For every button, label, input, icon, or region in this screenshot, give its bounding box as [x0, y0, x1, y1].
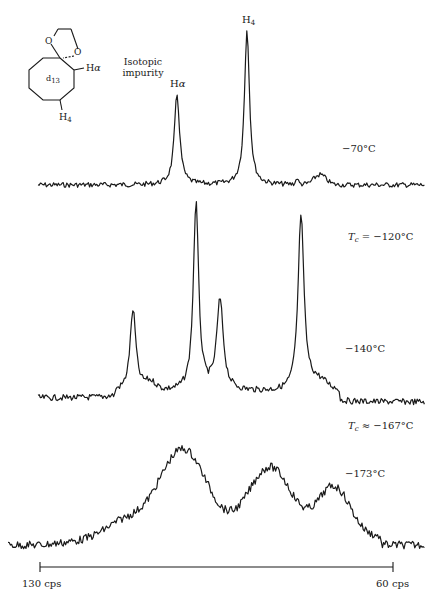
- ring-deuterium-label: d13: [46, 75, 60, 85]
- coalescence-label-2: Tc ≈ −167°C: [348, 421, 413, 433]
- oxygen-label-2: O: [74, 48, 81, 57]
- peak-label-h4: H4: [242, 15, 255, 27]
- nmr-figure: O O d13 Hα H4 Isotopic impurity Hα H4 −7…: [0, 0, 445, 601]
- molecule-h-alpha-label: Hα: [86, 63, 101, 73]
- temperature-label-minus-70: −70°C: [342, 144, 376, 154]
- spectra-canvas: [0, 0, 445, 601]
- temperature-label-minus-140: −140°C: [345, 344, 385, 354]
- isotopic-impurity-annotation: Isotopic impurity: [118, 56, 168, 78]
- coalescence-label-1: Tc = −120°C: [348, 232, 413, 244]
- spectrum-trace-minus-70: [38, 31, 424, 187]
- temperature-label-minus-173: −173°C: [345, 469, 385, 479]
- molecule-h4-label: H4: [59, 112, 72, 124]
- molecule-structure: [29, 29, 84, 110]
- scale-label-60-cps: 60 cps: [376, 579, 409, 589]
- spectrum-trace-minus-173: [8, 446, 424, 549]
- scale-label-130-cps: 130 cps: [22, 579, 61, 589]
- oxygen-label-1: O: [45, 37, 52, 46]
- scale-bar: [40, 562, 393, 572]
- peak-label-h-alpha: Hα: [170, 79, 186, 89]
